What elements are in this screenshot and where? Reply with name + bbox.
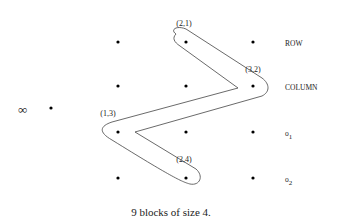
point-label: (2,1) bbox=[176, 19, 192, 28]
grid-point bbox=[184, 130, 187, 133]
row-label: ROW bbox=[285, 39, 303, 48]
grid-point bbox=[116, 176, 119, 179]
grid-point bbox=[184, 176, 187, 179]
infinity-point bbox=[49, 106, 52, 109]
grid-point bbox=[251, 130, 254, 133]
row-label: o2 bbox=[285, 175, 293, 187]
grid-point bbox=[116, 84, 119, 87]
row-label: o1 bbox=[285, 129, 293, 141]
grid-point bbox=[116, 40, 119, 43]
point-label: (3,2) bbox=[245, 65, 261, 74]
grid-point bbox=[251, 40, 254, 43]
grid-point bbox=[251, 176, 254, 179]
grid-point bbox=[251, 84, 254, 87]
grid-point bbox=[184, 40, 187, 43]
grid-point bbox=[184, 84, 187, 87]
point-label: (2,4) bbox=[176, 155, 192, 164]
row-label: COLUMN bbox=[285, 83, 318, 92]
point-label: (1,3) bbox=[100, 109, 116, 118]
caption: 9 blocks of size 4. bbox=[131, 206, 211, 218]
grid-point bbox=[116, 130, 119, 133]
infinity-symbol: ∞ bbox=[18, 102, 27, 117]
block-diagram: ∞ (2,1)(3,2)(1,3)(2,4) ROWCOLUMNo1o2 9 b… bbox=[0, 0, 342, 221]
